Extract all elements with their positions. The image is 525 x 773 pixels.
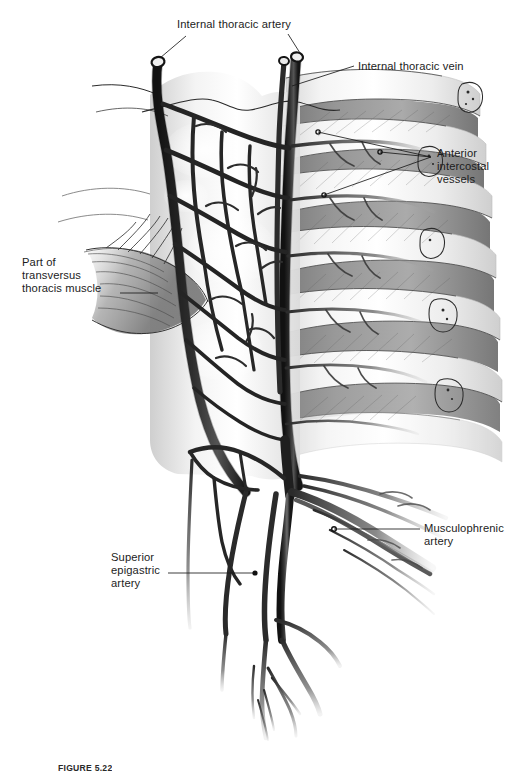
label-superior-epigastric-artery: Superiorepigastricartery <box>111 551 160 591</box>
label-line: Anterior <box>437 147 477 159</box>
label-line: transversus <box>22 269 81 281</box>
label-line: epigastric <box>111 564 160 576</box>
label-line: vessels <box>437 173 475 185</box>
label-line: intercostal <box>437 160 489 172</box>
vessel-cut-end <box>278 56 289 66</box>
figure-illustration <box>0 0 525 773</box>
left-body-wall <box>58 188 154 256</box>
pleura-edge <box>92 85 156 94</box>
anatomical-figure: Internal thoracic artery Internal thorac… <box>0 0 525 773</box>
label-part-of-transversus-thoracis-muscle: Part oftransversusthoracis muscle <box>22 256 101 296</box>
leader-dot <box>252 570 257 575</box>
label-musculophrenic-artery: Musculophrenicartery <box>424 522 504 548</box>
rib-cage-group <box>279 69 502 462</box>
figure-caption-number: FIGURE 5.22 <box>58 763 112 773</box>
label-internal-thoracic-artery: Internal thoracic artery <box>177 18 291 31</box>
vessel-cut-end <box>290 51 303 62</box>
label-line: Part of <box>22 256 56 268</box>
label-line: thoracis muscle <box>22 282 101 294</box>
label-line: Superior <box>111 551 154 563</box>
label-line: artery <box>111 577 140 589</box>
vessel-cut-end <box>151 56 166 68</box>
label-internal-thoracic-vein: Internal thoracic vein <box>358 60 464 73</box>
superior-epigastric-artery-medial <box>265 494 277 640</box>
label-anterior-intercostal-vessels: Anteriorintercostalvessels <box>437 147 489 187</box>
leader-line-internal-thoracic-artery-left <box>160 36 186 58</box>
figure-caption: FIGURE 5.22 <box>58 763 112 773</box>
common-trunk-descending <box>285 440 290 496</box>
superior-epigastric-artery <box>281 496 291 640</box>
terminal-branches <box>222 620 340 740</box>
leader-line-internal-thoracic-artery-right <box>288 34 300 53</box>
label-line: artery <box>424 535 453 547</box>
left-long-descending-vessel <box>188 460 192 628</box>
label-line: Musculophrenic <box>424 522 504 534</box>
